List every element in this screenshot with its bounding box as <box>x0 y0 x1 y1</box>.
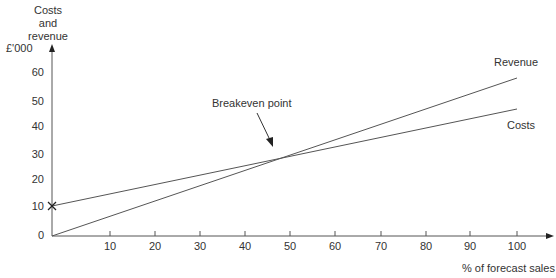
breakeven-label: Breakeven point <box>212 97 292 109</box>
y-tick-label-30: 30 <box>20 148 44 160</box>
y-tick-label-50: 50 <box>20 95 44 107</box>
x-tick-label-40: 40 <box>230 240 260 252</box>
y-axis-title: Costs and revenue <box>28 4 68 43</box>
y-tick-label-40: 40 <box>20 120 44 132</box>
x-tick-label-100: 100 <box>502 240 532 252</box>
x-tick-label-10: 10 <box>95 240 125 252</box>
y-tick-label-10: 10 <box>20 200 44 212</box>
x-axis-title: % of forecast sales <box>462 262 555 274</box>
x-tick-label-60: 60 <box>320 240 350 252</box>
chart-canvas <box>0 0 556 278</box>
x-axis-arrow-icon <box>546 233 554 239</box>
y-tick-label-60: 60 <box>20 66 44 78</box>
y-axis-title-line3: revenue <box>28 30 68 43</box>
breakeven-arrow <box>257 113 270 140</box>
x-tick-label-50: 50 <box>275 240 305 252</box>
revenue-label: Revenue <box>494 56 538 68</box>
x-tick-label-70: 70 <box>366 240 396 252</box>
x-tick-label-90: 90 <box>455 240 485 252</box>
y-tick-label-20: 20 <box>20 173 44 185</box>
y-axis-unit: £'000 <box>6 42 33 54</box>
x-tick-label-80: 80 <box>411 240 441 252</box>
costs-label: Costs <box>507 119 535 131</box>
costs-line <box>52 109 517 206</box>
breakeven-arrowhead-icon <box>266 137 273 147</box>
y-axis-title-line2: and <box>28 17 68 30</box>
x-tick-label-20: 20 <box>140 240 170 252</box>
y-axis-arrow-icon <box>49 44 55 52</box>
x-tick-label-30: 30 <box>185 240 215 252</box>
y-axis-title-line1: Costs <box>28 4 68 17</box>
y-tick-label-0: 0 <box>20 229 44 241</box>
x-tick-marks <box>110 231 517 236</box>
